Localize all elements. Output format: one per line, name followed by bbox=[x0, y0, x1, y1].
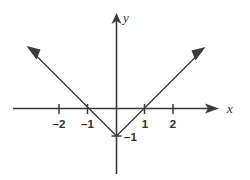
coordinate-plane-svg: –2 –1 1 2 –1 x y bbox=[0, 0, 250, 180]
curve-left-ray bbox=[33, 53, 117, 137]
tick-label-x-pos1: 1 bbox=[142, 118, 149, 130]
tick-label-y-neg1: –1 bbox=[124, 131, 137, 143]
y-axis-group bbox=[112, 13, 122, 174]
math-figure: –2 –1 1 2 –1 x y bbox=[0, 0, 250, 180]
tick-labels-group: –2 –1 1 2 –1 bbox=[53, 118, 177, 143]
tick-label-x-pos2: 2 bbox=[170, 118, 176, 130]
curve-right-ray bbox=[117, 54, 200, 137]
x-axis-label: x bbox=[226, 101, 233, 116]
tick-label-x-neg2: –2 bbox=[53, 118, 66, 130]
tick-label-x-neg1: –1 bbox=[81, 118, 94, 130]
y-axis-label: y bbox=[121, 10, 129, 25]
axis-name-labels-group: x y bbox=[121, 10, 233, 116]
